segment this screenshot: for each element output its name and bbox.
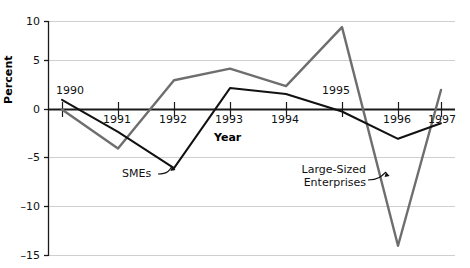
y-axis-title: Percent <box>2 55 15 104</box>
xtick-label-1992: 1992 <box>159 113 187 126</box>
ytick-label-10: 10 <box>10 15 40 28</box>
series-line-smes <box>62 88 441 168</box>
annotation-large-sized-enterprises: Large-Sized Enterprises <box>290 164 366 189</box>
x-axis-title: Year <box>214 131 241 144</box>
ytick-label--10: –10 <box>2 200 40 213</box>
y-axis <box>44 21 49 256</box>
xtick-label-1994: 1994 <box>271 113 299 126</box>
annotation-large-line2: Enterprises <box>290 177 366 190</box>
gridlines <box>48 22 455 256</box>
chart-container: 10 5 0 –5 –10 –15 1990 1991 1992 1993 19… <box>0 0 470 268</box>
leader-line-large <box>368 172 386 180</box>
series-line-large-sized-enterprises <box>62 27 441 246</box>
annotation-large-line1: Large-Sized <box>290 164 366 177</box>
xtick-label-1995: 1995 <box>322 84 350 97</box>
xtick-label-1993: 1993 <box>215 113 243 126</box>
ytick-label-0: 0 <box>10 103 40 116</box>
xtick-label-1991: 1991 <box>103 113 131 126</box>
ytick-label--15: –15 <box>2 249 40 262</box>
ytick-label--5: –5 <box>6 151 40 164</box>
leader-line-smes <box>158 166 172 174</box>
xtick-label-1990: 1990 <box>56 84 84 97</box>
annotation-smes: SMEs <box>122 168 151 181</box>
xtick-label-1996: 1996 <box>383 113 411 126</box>
xtick-label-1997: 1997 <box>428 113 456 126</box>
